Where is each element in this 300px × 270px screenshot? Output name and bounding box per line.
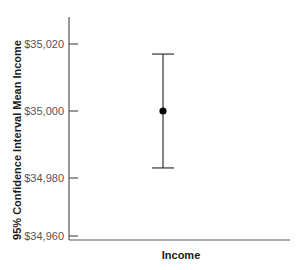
axes	[69, 17, 290, 240]
x-axis-title: Income	[162, 249, 201, 261]
y-tick-label: $34,960	[24, 230, 64, 242]
error-bar-series	[152, 54, 174, 168]
y-axis-ticks: $34,960$34,980$35,000$35,020	[24, 38, 78, 242]
y-axis-title: 95% Confidence Interval Mean Income	[11, 40, 23, 240]
y-tick-label: $34,980	[24, 172, 64, 184]
error-bar-chart: $34,960$34,980$35,000$35,020 Income 95% …	[0, 0, 300, 270]
y-tick-label: $35,000	[24, 105, 64, 117]
y-tick-label: $35,020	[24, 38, 64, 50]
mean-marker	[159, 107, 166, 114]
